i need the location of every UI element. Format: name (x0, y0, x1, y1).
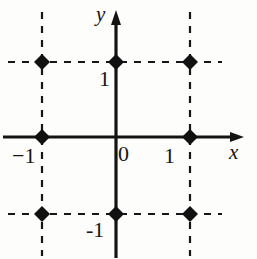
x-axis-label: x (229, 142, 238, 163)
tick-label-x-pos-one: 1 (164, 145, 175, 167)
point-0-1 (108, 54, 124, 70)
cartesian-lattice-points-diagram: y x 1 -1 0 1 −1 (0, 0, 257, 259)
coordinate-plane-svg (0, 0, 257, 259)
point-neg1-0 (34, 129, 50, 145)
tick-label-x-neg-one: −1 (12, 145, 35, 167)
point-1-neg1 (182, 206, 198, 222)
point-0-neg1 (108, 206, 124, 222)
tick-label-origin: 0 (118, 143, 129, 165)
point-1-0 (182, 129, 198, 145)
y-axis-arrowhead (111, 10, 121, 25)
point-neg1-1 (34, 54, 50, 70)
point-neg1-neg1 (34, 206, 50, 222)
y-axis-label: y (96, 4, 105, 25)
tick-label-y-pos-one: 1 (99, 68, 110, 90)
tick-label-y-neg-one: -1 (86, 219, 104, 241)
point-1-1 (182, 54, 198, 70)
